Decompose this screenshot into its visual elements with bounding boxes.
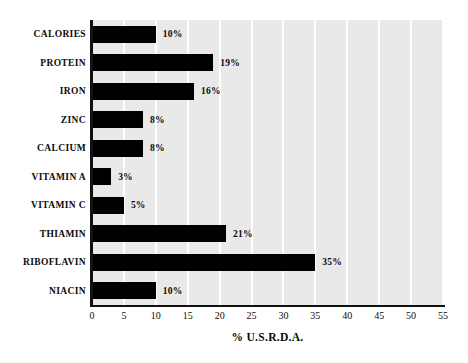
- bar: [92, 54, 213, 71]
- x-tick-label-45: 45: [367, 310, 391, 322]
- category-label-calcium: CALCIUM: [0, 143, 86, 153]
- bar: [92, 254, 315, 271]
- category-label-iron: IRON: [0, 86, 86, 96]
- bar: [92, 111, 143, 128]
- bar-value-label: 5%: [131, 200, 146, 210]
- bar-value-label: 35%: [322, 257, 342, 267]
- bar: [92, 83, 194, 100]
- gridline-x-40: [346, 20, 348, 305]
- bar: [92, 282, 156, 299]
- x-tick-label-35: 35: [303, 310, 327, 322]
- bar: [92, 140, 143, 157]
- bar: [92, 168, 111, 185]
- gridline-x-50: [410, 20, 412, 305]
- x-tick-label-15: 15: [176, 310, 200, 322]
- bar: [92, 197, 124, 214]
- x-tick-label-0: 0: [80, 310, 104, 322]
- bar-chart: CALORIESPROTEINIRONZINCCALCIUMVITAMIN AV…: [0, 0, 468, 363]
- bar-value-label: 8%: [150, 115, 165, 125]
- x-tick-label-40: 40: [335, 310, 359, 322]
- category-label-vitamin-c: VITAMIN C: [0, 200, 86, 210]
- plot-area: [92, 20, 443, 305]
- x-tick-label-20: 20: [208, 310, 232, 322]
- bar-value-label: 10%: [163, 286, 183, 296]
- y-axis-line: [90, 20, 93, 305]
- x-axis-tick-labels: 0510152025303540455055: [0, 310, 468, 326]
- x-tick-label-25: 25: [240, 310, 264, 322]
- category-axis: CALORIESPROTEINIRONZINCCALCIUMVITAMIN AV…: [0, 20, 86, 305]
- bar-value-label: 3%: [118, 172, 133, 182]
- bar-value-label: 16%: [201, 86, 221, 96]
- category-label-niacin: NIACIN: [0, 286, 86, 296]
- x-axis-line: [90, 305, 445, 307]
- bar-value-label: 8%: [150, 143, 165, 153]
- category-label-thiamin: THIAMIN: [0, 229, 86, 239]
- bar-value-label: 19%: [220, 58, 240, 68]
- bar-value-label: 21%: [233, 229, 253, 239]
- category-label-riboflavin: RIBOFLAVIN: [0, 257, 86, 267]
- gridline-x-45: [378, 20, 380, 305]
- category-label-protein: PROTEIN: [0, 58, 86, 68]
- bar: [92, 225, 226, 242]
- x-tick-label-50: 50: [399, 310, 423, 322]
- x-tick-label-5: 5: [112, 310, 136, 322]
- x-tick-label-55: 55: [431, 310, 455, 322]
- x-tick-label-10: 10: [144, 310, 168, 322]
- x-tick-label-30: 30: [271, 310, 295, 322]
- gridline-x-55: [442, 20, 443, 305]
- x-axis-title: % U.S.R.D.A.: [92, 331, 443, 343]
- category-label-vitamin-a: VITAMIN A: [0, 172, 86, 182]
- category-label-calories: CALORIES: [0, 29, 86, 39]
- category-label-zinc: ZINC: [0, 115, 86, 125]
- bar-value-label: 10%: [163, 29, 183, 39]
- bar: [92, 26, 156, 43]
